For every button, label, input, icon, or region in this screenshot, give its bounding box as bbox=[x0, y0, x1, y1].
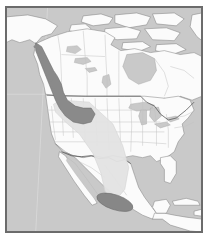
range-map-figure bbox=[0, 0, 210, 242]
map-frame bbox=[5, 6, 203, 233]
map-canvas bbox=[6, 7, 202, 232]
land-yucatan bbox=[153, 199, 171, 213]
